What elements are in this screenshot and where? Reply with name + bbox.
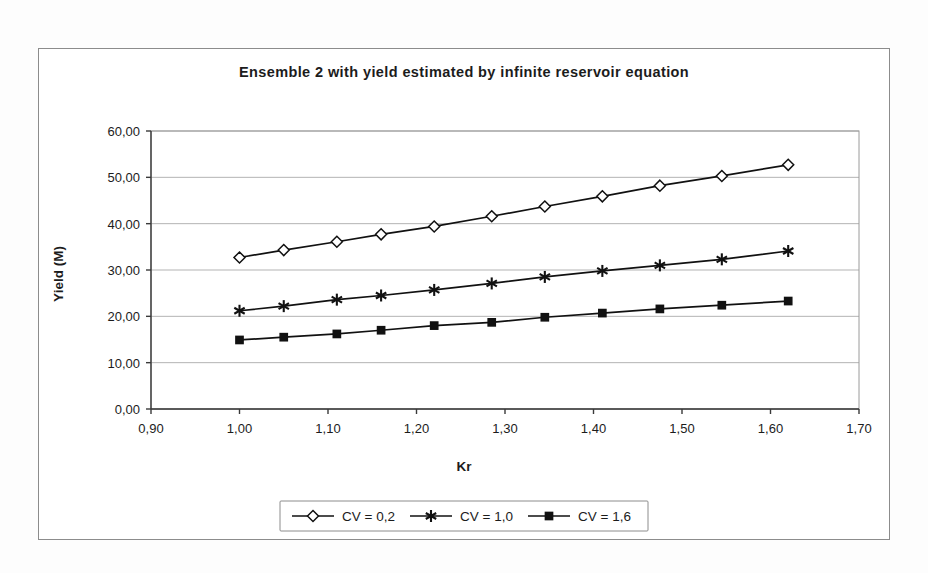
- data-point-diamond-marker: [331, 236, 342, 247]
- y-tick-label: 30,00: [107, 263, 140, 278]
- data-point-square-marker: [656, 305, 663, 312]
- series-1: [234, 159, 794, 263]
- series-line: [240, 251, 789, 311]
- legend-label: CV = 0,2: [342, 509, 395, 524]
- data-point-diamond-marker: [486, 211, 497, 222]
- x-tick-label: 1,50: [669, 421, 694, 436]
- x-tick-label: 1,40: [581, 421, 606, 436]
- series-line: [240, 301, 789, 340]
- y-tick-label: 20,00: [107, 309, 140, 324]
- y-tick-labels: 0,0010,0020,0030,0040,0050,0060,00: [107, 124, 140, 417]
- data-point-square-marker: [599, 309, 606, 316]
- x-tick-label: 1,20: [404, 421, 429, 436]
- legend-label: CV = 1,6: [578, 509, 631, 524]
- data-point-diamond-marker: [654, 180, 665, 191]
- data-point-diamond-marker: [539, 201, 550, 212]
- y-tick-label: 50,00: [107, 170, 140, 185]
- data-point-diamond-marker: [597, 191, 608, 202]
- x-tick-label: 1,10: [315, 421, 340, 436]
- y-axis: [146, 131, 151, 409]
- chart-title: Ensemble 2 with yield estimated by infin…: [239, 64, 689, 80]
- y-axis-label: Yield (M): [51, 246, 66, 302]
- gridlines-group: [151, 131, 859, 409]
- data-point-square-marker: [785, 297, 792, 304]
- series-3: [236, 297, 792, 343]
- data-point-diamond-marker: [234, 252, 245, 263]
- data-point-diamond-marker: [716, 170, 727, 181]
- data-point-square-marker: [378, 327, 385, 334]
- x-tick-labels: 0,901,001,101,201,301,401,501,601,70: [138, 421, 871, 436]
- y-tick-label: 10,00: [107, 356, 140, 371]
- data-point-square-marker: [545, 512, 552, 519]
- data-point-square-marker: [333, 330, 340, 337]
- data-point-square-marker: [541, 314, 548, 321]
- x-axis-label: Kr: [456, 459, 472, 474]
- series-line: [240, 165, 789, 258]
- data-point-diamond-marker: [278, 245, 289, 256]
- x-axis: [151, 409, 859, 414]
- y-tick-label: 0,00: [115, 402, 140, 417]
- x-tick-label: 1,70: [846, 421, 871, 436]
- chart-legend: CV = 0,2CV = 1,0CV = 1,6: [280, 501, 648, 531]
- data-point-square-marker: [718, 302, 725, 309]
- x-tick-label: 1,60: [758, 421, 783, 436]
- y-tick-label: 60,00: [107, 124, 140, 139]
- screenshot-page: Ensemble 2 with yield estimated by infin…: [0, 0, 928, 573]
- data-point-square-marker: [488, 319, 495, 326]
- data-point-square-marker: [236, 336, 243, 343]
- data-point-square-marker: [280, 334, 287, 341]
- y-tick-label: 40,00: [107, 217, 140, 232]
- data-point-diamond-marker: [429, 221, 440, 232]
- x-tick-label: 1,30: [492, 421, 517, 436]
- data-point-square-marker: [431, 322, 438, 329]
- data-point-diamond-marker: [783, 159, 794, 170]
- x-tick-label: 0,90: [138, 421, 163, 436]
- chart-frame: Ensemble 2 with yield estimated by infin…: [38, 48, 890, 540]
- line-chart: Ensemble 2 with yield estimated by infin…: [39, 49, 889, 539]
- legend-label: CV = 1,0: [460, 509, 513, 524]
- x-tick-label: 1,00: [227, 421, 252, 436]
- data-point-diamond-marker: [376, 229, 387, 240]
